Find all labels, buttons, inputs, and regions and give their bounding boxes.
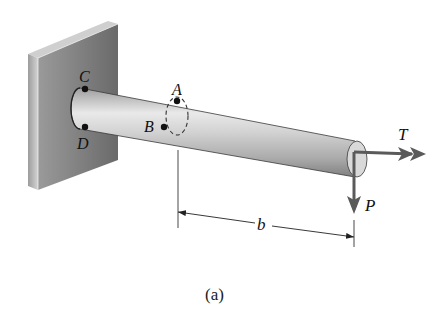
label-a: A bbox=[171, 81, 182, 98]
figure-caption: (a) bbox=[205, 285, 224, 304]
cantilever-bar-diagram: C D A B T P b (a) bbox=[0, 0, 439, 316]
point-c bbox=[82, 86, 88, 92]
label-dimension-b: b bbox=[257, 215, 266, 234]
point-b bbox=[161, 124, 167, 130]
label-torque: T bbox=[398, 125, 409, 144]
dimension-line-left bbox=[178, 212, 255, 223]
circular-bar bbox=[71, 88, 367, 177]
label-force: P bbox=[364, 196, 375, 215]
label-b: B bbox=[144, 118, 154, 135]
point-d bbox=[82, 124, 88, 130]
label-d: D bbox=[76, 135, 89, 152]
bar-end-face bbox=[347, 141, 367, 177]
wall-side-face bbox=[28, 54, 38, 190]
bar-body bbox=[71, 88, 355, 177]
point-a bbox=[174, 98, 180, 104]
dimension-line-right bbox=[272, 226, 354, 237]
label-c: C bbox=[79, 68, 90, 85]
